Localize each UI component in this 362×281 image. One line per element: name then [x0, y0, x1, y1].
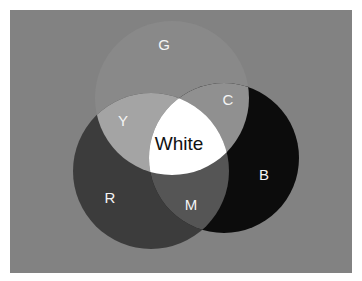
- label-r: R: [105, 190, 116, 205]
- label-g: G: [158, 37, 170, 52]
- label-white: White: [155, 134, 204, 153]
- label-y: Y: [118, 113, 128, 128]
- label-c: C: [223, 92, 234, 107]
- label-b: B: [259, 167, 269, 182]
- label-m: M: [185, 197, 198, 212]
- venn-diagram: G Y C White R M B: [0, 0, 362, 281]
